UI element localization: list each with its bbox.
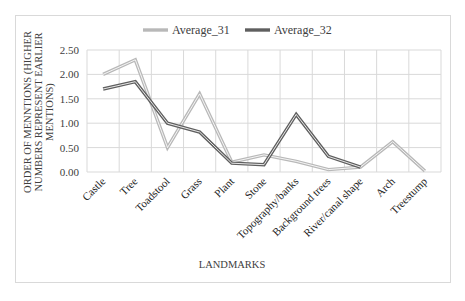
x-category-label: Castle bbox=[80, 175, 108, 203]
legend: Average_31Average_32 bbox=[143, 23, 332, 37]
legend-label: Average_31 bbox=[172, 23, 230, 37]
x-category-label: River/canal shape bbox=[301, 175, 365, 239]
y-tick-label: 1.00 bbox=[60, 117, 80, 129]
y-tick-label: 2.00 bbox=[60, 68, 80, 80]
y-tick-label: 0.50 bbox=[60, 142, 80, 154]
x-category-label: Toadstool bbox=[133, 175, 172, 214]
y-tick-label: 1.50 bbox=[60, 93, 80, 105]
x-category-label: Tree bbox=[117, 175, 140, 198]
x-category-label: Grass bbox=[178, 175, 204, 201]
x-axis-labels: CastleTreeToadstoolGrassPlantStoneTopogr… bbox=[80, 175, 430, 242]
line-chart: 0.000.501.001.502.002.50 CastleTreeToads… bbox=[0, 0, 465, 301]
series-average_32 bbox=[103, 82, 360, 167]
x-category-label: Plant bbox=[212, 175, 236, 199]
x-axis-title: LANDMARKS bbox=[199, 259, 266, 270]
y-tick-label: 0.00 bbox=[60, 166, 80, 178]
x-category-label: Arch bbox=[373, 175, 397, 199]
y-tick-label: 2.50 bbox=[60, 44, 80, 56]
y-axis-ticks: 0.000.501.001.502.002.50 bbox=[60, 44, 80, 178]
x-category-label: Stone bbox=[242, 175, 268, 201]
x-category-label: Background trees bbox=[270, 175, 333, 238]
y-axis-title-line: NUMBERS REPRESENT EARLIER bbox=[33, 32, 44, 191]
y-axis-title: ORDER OF MENNTIONS (HIGHERNUMBERS REPRES… bbox=[22, 31, 56, 193]
legend-label: Average_32 bbox=[274, 23, 332, 37]
y-axis-title-line: MENTIONS) bbox=[44, 83, 56, 141]
